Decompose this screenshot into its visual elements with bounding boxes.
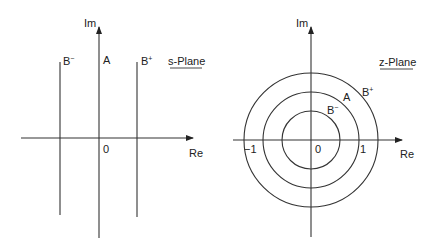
s-plane-origin-label: 0	[103, 143, 109, 155]
s-plane-label-a: A	[103, 54, 111, 66]
label-letter: B	[327, 104, 334, 116]
z-plane-origin-label: 0	[315, 143, 321, 155]
z-plane-tick-pos-one: 1	[360, 143, 366, 155]
label-sup: +	[148, 55, 152, 62]
z-plane-re-label: Re	[400, 148, 414, 160]
z-plane-label-b-plus: B+	[362, 86, 373, 98]
s-plane-im-label: Im	[84, 17, 96, 29]
s-plane-label-b-minus: B−	[63, 55, 74, 67]
label-sup: −	[70, 55, 74, 62]
z-plane-title: z-Plane	[379, 56, 416, 68]
s-plane-title: s-Plane	[168, 55, 205, 67]
z-plane: Im Re 0 −1 1 B− A B+ z-Plane	[233, 17, 416, 237]
z-plane-label-a: A	[343, 91, 351, 103]
label-letter: B	[141, 55, 148, 67]
z-plane-tick-neg-one: −1	[244, 143, 257, 155]
s-plane-label-b-plus: B+	[141, 55, 152, 67]
label-letter: B	[63, 55, 70, 67]
z-plane-im-label: Im	[296, 17, 308, 29]
diagram-canvas: Im Re 0 B− A B+ s-Plane Im Re 0 −1 1 B− …	[0, 0, 434, 245]
s-plane-re-label: Re	[189, 147, 203, 159]
label-letter: B	[362, 86, 369, 98]
label-sup: +	[369, 86, 373, 93]
s-plane: Im Re 0 B− A B+ s-Plane	[21, 17, 205, 238]
label-sup: −	[334, 104, 338, 111]
z-plane-label-b-minus: B−	[327, 104, 338, 116]
